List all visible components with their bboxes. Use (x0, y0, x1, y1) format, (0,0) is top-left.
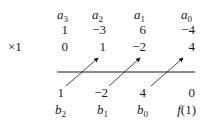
footer-b0: b0 (132, 103, 148, 117)
result-b0: 4 (126, 86, 146, 100)
result-b2: 1 (44, 86, 64, 100)
footer-b2: b2 (50, 103, 66, 117)
footer-f1: f(1) (166, 103, 196, 117)
result-b1: −2 (84, 86, 108, 100)
footer-b1: b1 (92, 103, 108, 117)
result-remainder: 0 (170, 86, 195, 100)
